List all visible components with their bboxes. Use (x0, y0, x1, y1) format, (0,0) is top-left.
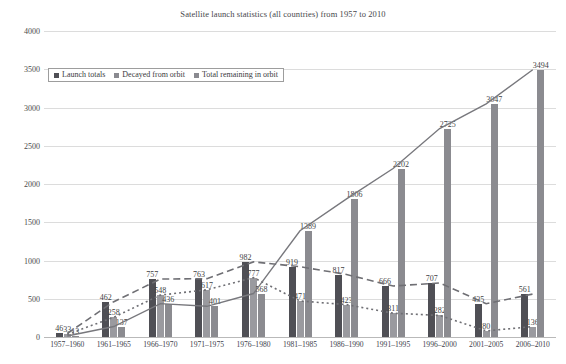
y-axis-tick-label: 1000 (4, 256, 40, 265)
chart-legend: Launch totals Decayed from orbit Total r… (48, 68, 284, 82)
y-axis: 05001000150020002500300035004000 (0, 31, 40, 337)
legend-swatch-icon (194, 73, 199, 78)
bar[interactable]: 282 (436, 315, 443, 337)
bar[interactable]: 401 (211, 306, 218, 337)
bar[interactable]: 436 (165, 304, 172, 337)
bar[interactable]: 33 (64, 334, 71, 337)
bar-group-bars: 5611363494 (509, 31, 556, 337)
bar-group: 6663112202 (370, 31, 417, 337)
bar[interactable]: 423 (343, 305, 350, 337)
bar-group-bars: 435803047 (463, 31, 510, 337)
legend-item-total-remaining-in-orbit[interactable]: Total remaining in orbit (194, 71, 278, 79)
bar-value-label: 1389 (300, 223, 316, 231)
bar-value-label: 1806 (347, 191, 363, 199)
bar-value-label: 3494 (533, 62, 549, 70)
bar-value-label: 401 (209, 298, 221, 306)
bar-value-label: 666 (379, 278, 391, 286)
legend-label: Decayed from orbit (122, 71, 185, 79)
bar[interactable]: 919 (289, 267, 296, 337)
bar[interactable]: 3494 (537, 70, 544, 337)
bar[interactable]: 462 (102, 302, 109, 337)
bar[interactable]: 471 (297, 301, 304, 337)
bar[interactable]: 568 (258, 294, 265, 337)
bar-value-label: 919 (286, 259, 298, 267)
legend-label: Total remaining in orbit (202, 71, 278, 79)
bar-value-label: 13 (71, 328, 79, 336)
bar[interactable]: 3047 (491, 104, 498, 337)
bar[interactable]: 435 (475, 304, 482, 337)
bar-value-label: 137 (116, 319, 128, 327)
y-axis-tick-label: 0 (4, 333, 40, 342)
bar-value-label: 33 (63, 326, 71, 334)
x-axis-tick-label: 1981–1985 (277, 340, 324, 349)
bar-value-label: 982 (239, 254, 251, 262)
y-axis-tick-label: 3500 (4, 65, 40, 74)
bar-value-label: 2202 (393, 161, 409, 169)
x-axis-tick-label: 1966–1970 (137, 340, 184, 349)
bar-value-label: 561 (519, 286, 531, 294)
bar-group: 7072822725 (416, 31, 463, 337)
bar-value-label: 707 (426, 275, 438, 283)
bar-value-label: 2725 (440, 121, 456, 129)
x-axis-tick-label: 1976–1980 (230, 340, 277, 349)
bar-value-label: 435 (472, 296, 484, 304)
bar[interactable]: 561 (521, 294, 528, 337)
x-axis-tick-label: 1957–1960 (44, 340, 91, 349)
bar[interactable]: 13 (72, 336, 79, 337)
chart-title: Satellite launch statistics (all countri… (0, 9, 566, 19)
x-axis-tick-label: 1971–1975 (184, 340, 231, 349)
y-axis-tick-label: 1500 (4, 218, 40, 227)
bar-group: 8174231806 (323, 31, 370, 337)
x-axis-tick-label: 1991–1995 (370, 340, 417, 349)
bar-value-label: 757 (146, 271, 158, 279)
x-axis-tick-label: 2006–2010 (509, 340, 556, 349)
bar-value-label: 568 (255, 286, 267, 294)
bar[interactable]: 1806 (351, 199, 358, 337)
bar-value-label: 3047 (486, 96, 502, 104)
bar[interactable]: 311 (390, 313, 397, 337)
bar[interactable]: 1389 (305, 231, 312, 337)
legend-item-decayed-from-orbit[interactable]: Decayed from orbit (114, 71, 185, 79)
legend-swatch-icon (114, 73, 119, 78)
bar-value-label: 817 (333, 267, 345, 275)
legend-item-launch-totals[interactable]: Launch totals (54, 71, 105, 79)
bar-group-bars: 7072822725 (416, 31, 463, 337)
bar-group: 5611363494 (509, 31, 556, 337)
y-axis-tick-label: 500 (4, 294, 40, 303)
bar-group-bars: 6663112202 (370, 31, 417, 337)
x-axis-tick-label: 1986–1990 (323, 340, 370, 349)
bar-value-label: 617 (201, 282, 213, 290)
bar-value-label: 436 (162, 296, 174, 304)
gridline (44, 337, 556, 338)
x-axis-tick-label: 1961–1965 (91, 340, 138, 349)
chart-root: Satellite launch statistics (all countri… (0, 0, 566, 364)
bar-value-label: 777 (247, 270, 259, 278)
legend-swatch-icon (54, 73, 59, 78)
y-axis-tick-label: 3000 (4, 103, 40, 112)
bar[interactable]: 817 (335, 275, 342, 338)
legend-label: Launch totals (62, 71, 105, 79)
bar[interactable]: 136 (529, 327, 536, 337)
bar-value-label: 258 (108, 309, 120, 317)
x-axis-tick-label: 2001–2005 (463, 340, 510, 349)
bar[interactable]: 137 (118, 327, 125, 337)
bar-value-label: 46 (55, 325, 63, 333)
bar[interactable]: 2725 (444, 129, 451, 337)
x-axis-labels: 1957–19601961–19651966–19701971–19751976… (44, 340, 556, 349)
bar-value-label: 763 (193, 271, 205, 279)
bar-value-label: 80 (482, 323, 490, 331)
y-axis-tick-label: 2000 (4, 180, 40, 189)
bar[interactable]: 46 (56, 333, 63, 337)
bar[interactable]: 80 (483, 331, 490, 337)
y-axis-tick-label: 4000 (4, 27, 40, 36)
bar-group-bars: 8174231806 (323, 31, 370, 337)
bar-group: 435803047 (463, 31, 510, 337)
y-axis-tick-label: 2500 (4, 141, 40, 150)
bar-value-label: 462 (100, 294, 112, 302)
x-axis-tick-label: 1996–2000 (416, 340, 463, 349)
bar[interactable]: 2202 (398, 169, 405, 337)
